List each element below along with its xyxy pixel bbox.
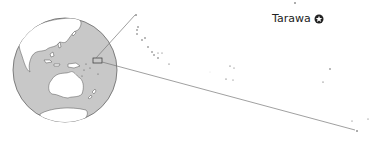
capital-name: Tarawa [272,12,311,25]
capital-label: Tarawa [272,12,324,25]
capital-star-circle-icon [314,14,324,24]
leader-lines [96,15,355,130]
kiribati-island-dots [135,2,368,132]
globe [13,18,117,124]
